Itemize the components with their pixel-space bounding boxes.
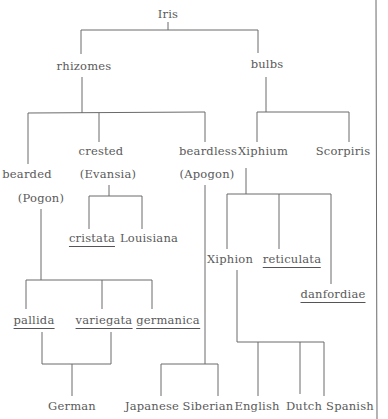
node-siberian: Siberian xyxy=(183,400,234,413)
node-danfordiae: danfordiae xyxy=(300,288,365,303)
node-apogon: (Apogon) xyxy=(180,168,235,181)
node-reticulata: reticulata xyxy=(263,253,321,268)
node-germanica: germanica xyxy=(136,314,200,329)
node-bulbs: bulbs xyxy=(251,58,284,71)
node-rhizomes: rhizomes xyxy=(57,60,112,73)
node-english: English xyxy=(234,400,279,413)
node-dutch: Dutch xyxy=(286,400,322,413)
node-evansia: (Evansia) xyxy=(80,168,136,181)
node-japanese: Japanese xyxy=(125,400,179,413)
node-xiphion: Xiphion xyxy=(207,253,253,266)
node-louisiana: Louisiana xyxy=(120,232,178,245)
node-bearded: bearded xyxy=(2,168,51,181)
node-scorpiris: Scorpiris xyxy=(316,145,371,158)
node-spanish: Spanish xyxy=(326,400,374,413)
node-crested: crested xyxy=(79,145,124,158)
node-iris: Iris xyxy=(158,8,178,21)
node-variegata: variegata xyxy=(76,314,133,329)
node-beardless: beardless xyxy=(179,145,237,158)
node-pogon: (Pogon) xyxy=(18,192,64,205)
node-german: German xyxy=(48,400,96,413)
node-xiphium: Xiphium xyxy=(238,145,288,158)
node-cristata: cristata xyxy=(69,232,115,247)
node-pallida: pallida xyxy=(14,314,55,329)
iris-taxonomy-tree: Iris rhizomes bulbs bearded (Pogon) cres… xyxy=(0,0,388,419)
